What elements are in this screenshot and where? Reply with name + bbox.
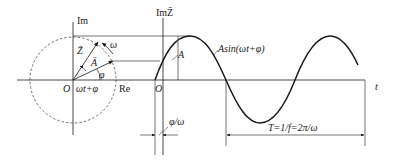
- re-axis-label: Re: [119, 83, 131, 94]
- angle-label: ωt+φ: [76, 83, 99, 94]
- origin-label: O: [63, 83, 70, 94]
- vector-A-label: Ā: [90, 57, 98, 68]
- phasor-sinusoid-diagram: Im Z̄ Ā ω φ O ωt+φ Re ImZ̄ O A Asin(ωt+φ…: [0, 0, 393, 162]
- phase-shift-leader: [159, 127, 168, 135]
- imz-axis-label: ImZ̄: [156, 7, 173, 18]
- vector-Z-label: Z̄: [77, 45, 83, 56]
- function-label: Asin(ωt+φ): [217, 43, 265, 55]
- im-axis-label: Im: [77, 15, 88, 26]
- amplitude-label: A: [177, 49, 185, 60]
- phi-label: φ: [99, 69, 105, 80]
- time-axis-label: t: [375, 81, 378, 92]
- phasor-diagram: Im Z̄ Ā ω φ O ωt+φ Re: [17, 15, 190, 135]
- phase-shift-label: φ/ω: [169, 116, 184, 127]
- period-label: T=1/f=2π/ω: [268, 122, 317, 133]
- waveform-plot: ImZ̄ O A Asin(ωt+φ) t φ/ω T=1/f=2π/ω: [140, 7, 378, 155]
- wave-origin-label: O: [155, 83, 162, 94]
- omega-label: ω: [110, 39, 117, 50]
